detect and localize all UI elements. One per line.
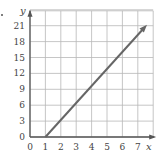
tick-labels: 01234567036912151821 xyxy=(14,21,141,152)
grid xyxy=(30,10,153,137)
y-axis-label: y xyxy=(19,5,26,16)
svg-text:7: 7 xyxy=(135,142,141,152)
svg-text:6: 6 xyxy=(120,142,126,152)
svg-text:15: 15 xyxy=(14,53,26,63)
x-axis-label: x xyxy=(146,141,152,152)
line-chart: 01234567036912151821 x y xyxy=(0,0,157,159)
svg-text:1: 1 xyxy=(43,142,49,152)
svg-text:18: 18 xyxy=(14,37,26,47)
svg-text:3: 3 xyxy=(73,142,79,152)
svg-text:3: 3 xyxy=(19,116,25,126)
svg-text:0: 0 xyxy=(27,142,33,152)
svg-text:5: 5 xyxy=(104,142,110,152)
svg-text:4: 4 xyxy=(89,142,95,152)
svg-text:12: 12 xyxy=(14,68,25,78)
svg-text:21: 21 xyxy=(14,21,25,31)
svg-text:2: 2 xyxy=(58,142,64,152)
svg-text:0: 0 xyxy=(19,132,25,142)
svg-text:6: 6 xyxy=(19,100,25,110)
svg-text:9: 9 xyxy=(19,84,25,94)
